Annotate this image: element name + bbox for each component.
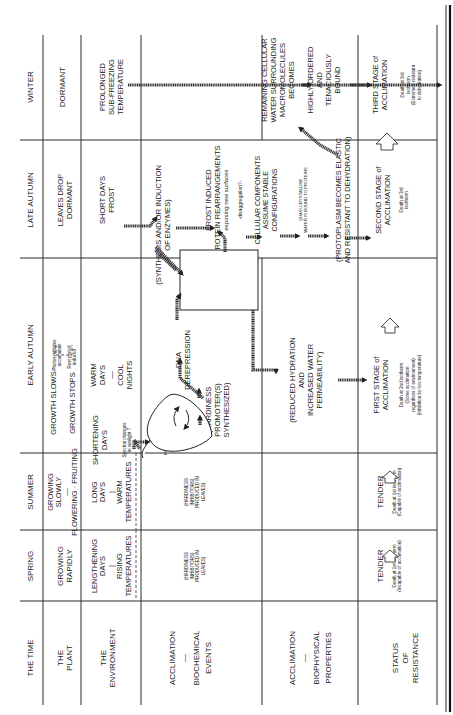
season-late-autumn-line: LATE AUTUMN — [26, 172, 35, 228]
biochem-hardiness-inhibitors-summer: (HARDINESSINHIBITORS)PRODUCED INLEAVES) — [184, 476, 206, 508]
status-third-stage-note-line: to dehydration) — [417, 69, 422, 100]
plant-winter-line: DORMANT — [58, 67, 67, 108]
biochem-frost-rearrangements-line: FROST INDUCED — [204, 169, 213, 231]
biochem-frost-rearrangements: FROST INDUCEDPROTEIN REARRANGEMENTS — [204, 145, 222, 254]
env-warm-days-cool-nights-line: WARM — [89, 363, 98, 386]
biochem-highly-ordered-line: HIGHLY ORDERED — [306, 46, 315, 113]
status-second-stage-note-line: Death at 3rd — [399, 187, 404, 212]
header-biochemical-events-line: BIOCHEMICAL — [192, 630, 201, 686]
header-the-plant-line: PLANT — [65, 645, 74, 671]
biophys-reduced-hydration: (REDUCED HYDRATIONANDINCREASED WATERPERM… — [288, 337, 324, 422]
biochem-exposing-surfaces: exposing new surfaces — [223, 169, 229, 230]
env-spring-line: TEMPERATURES — [124, 535, 133, 596]
biophys-protoplasm-elastic-line: AND RESISTANT TO DEHYDRATION) — [343, 137, 352, 264]
env-prolonged-subfreezing: PROLONGEDSUB-FREEZINGTEMPERATURE — [98, 59, 125, 115]
biochem-remaining-water-line: REMAINING CELLULAR — [260, 38, 269, 122]
biophys-reduced-hydration-line: AND — [297, 372, 306, 388]
plant-spring: GROWINGRAPIDLY — [56, 546, 74, 586]
open-arrow-icon — [381, 318, 399, 333]
status-third-stage-note-line: (Extremely resistant — [411, 64, 416, 105]
status-spring-note-line: Death at 1st isotherm — [392, 544, 397, 587]
header-the-plant-line: THE — [56, 650, 65, 666]
env-short-days-frost: SHORT DAYSFROST — [98, 176, 116, 224]
status-spring-note-line: (Incapable of acclimation) — [397, 540, 402, 592]
env-shortening-days-line: SHORTENING — [91, 415, 100, 465]
status-first-stage-label-line: FIRST STAGE of — [372, 356, 381, 414]
status-second-stage-label-line: ACCLIMATION — [383, 175, 392, 226]
status-spring-label: TENDER — [376, 549, 385, 582]
biochem-hardiness-inhibitors-summer-line: PRODUCED IN — [195, 476, 200, 508]
header-biophysical-properties-line: — — [300, 654, 309, 662]
biochem-hardiness-inhibitors-spring-line: PRODUCED IN — [195, 550, 200, 582]
status-first-stage-note-line: (Inhibition by low temperature) — [417, 354, 422, 415]
env-short-days-frost-line: SHORT DAYS — [98, 176, 107, 224]
biophys-reduced-hydration-line: PERMEABILITY) — [315, 351, 324, 409]
env-prolonged-subfreezing-line: PROLONGED — [98, 62, 107, 111]
header-status-of-resistance-line: RESISTANCE — [411, 633, 420, 684]
header-biochemical-events: ACCLIMATION—BIOCHEMICALEVENTS — [168, 630, 213, 686]
env-warm-days-cool-nights-line: — — [107, 371, 116, 379]
plant-late-autumn-line: DORMANT — [65, 181, 74, 219]
season-winter-line: WINTER — [26, 71, 35, 103]
env-spectral-note-line: in sunlight ? — [127, 428, 132, 453]
plant-growth-stops: GROWTH STOPS — [68, 372, 77, 434]
env-prolonged-subfreezing-line: TEMPERATURE — [116, 59, 125, 115]
status-first-stage-note-line: regardless of environment) — [411, 358, 416, 412]
env-warm-days-cool-nights-line: NIGHTS — [125, 361, 134, 389]
biochem-highly-ordered-line: TENACIOUSLY — [324, 54, 333, 106]
biochem-hardiness-promoters-line: PROMOTER(S) — [213, 383, 222, 437]
biochem-dna-derepression-line: DNA — [174, 352, 183, 368]
env-warm-days-cool-nights: WARMDAYS—COOLNIGHTS — [89, 361, 134, 389]
open-arrow-icon — [376, 133, 398, 150]
biochem-disaggregation-line: -disaggregation?- — [237, 180, 243, 219]
biochem-cellular-components-line: ASSUME STABLE — [262, 171, 269, 229]
status-first-stage-note-line: (Some acclimation — [405, 366, 410, 404]
status-summer-note-line: (Capable of acclimation) — [397, 467, 402, 516]
plant-growth-slows: GROWTH SLOWS — [49, 371, 58, 434]
metabolic-changes-box — [180, 250, 258, 310]
plant-spring-line: GROWING — [56, 546, 65, 586]
header-biophysical-properties-line: ACCLIMATION — [288, 631, 297, 685]
biophys-reduced-hydration-line: INCREASED WATER — [306, 343, 315, 416]
arrow-frost-to-enzymes — [124, 218, 156, 226]
biochem-remaining-water-line: WATER SURROUNDING — [269, 37, 278, 122]
biochem-hardiness-inhibitors-summer-line: (HARDINESS — [184, 478, 189, 506]
season-spring: SPRING — [26, 551, 35, 582]
biochem-quasi-crystalline: QUASI-CRYSTALLINEWATER IS BOUND TO PROTE… — [298, 167, 309, 233]
season-summer: SUMMER — [26, 474, 35, 510]
biochem-exposing-surfaces-line: exposing new surfaces — [223, 169, 229, 230]
status-second-stage-note-line: isotherm — [404, 191, 409, 209]
biochem-enzymes-line: OF ENZYMES) — [163, 199, 172, 251]
biochem-highly-ordered: HIGHLY ORDEREDANDTENACIOUSLYBOUND — [306, 46, 342, 113]
header-status-of-resistance-line: OF — [401, 652, 410, 663]
phytochrome-leaf-icon — [142, 394, 212, 458]
status-second-stage-label: SECOND STAGE ofACCLIMATION — [374, 165, 392, 233]
biochem-enzymes-line: (SYNTHESIS AND/OR INDUCTION — [154, 165, 163, 285]
plant-growth-stops-line: GROWTH STOPS — [68, 372, 77, 434]
biochem-hardiness-inhibitors-spring-line: INHIBITORS) — [190, 552, 195, 580]
env-warm-days-cool-nights-line: COOL — [116, 364, 125, 385]
status-second-stage-note: Death at 3rdisotherm — [399, 187, 410, 212]
header-the-time-line: THE TIME — [26, 639, 35, 676]
plant-late-autumn: LEAVES DROPDORMANT — [56, 174, 74, 226]
plant-rest-period-note-line: induced — [72, 349, 77, 365]
biochem-hardiness-inhibitors-spring: (HARDINESSINHIBITORS)PRODUCED INLEAVES) — [184, 550, 206, 582]
status-first-stage-note-line: Death at 2nd isotherm — [399, 363, 404, 408]
header-the-environment-line: ENVIRONMENT — [108, 628, 117, 687]
acclimation-diagram: THE TIMETHEPLANTTHEENVIRONMENTACCLIMATIO… — [0, 0, 453, 715]
env-spring: LENGTHENINGDAYS|RISINGTEMPERATURES — [90, 535, 133, 596]
header-biophysical-properties-line: PROPERTIES — [324, 632, 333, 683]
biochem-hardiness-promoters-line: SYNTHESIZED) — [222, 382, 231, 438]
status-summer-label-line: TENDER — [376, 475, 385, 508]
env-summer-line: TEMPERATURES — [124, 461, 133, 522]
header-biochemical-events-line: — — [180, 654, 189, 662]
env-shortening-days: SHORTENINGDAYS — [91, 415, 109, 465]
season-late-autumn: LATE AUTUMN — [26, 172, 35, 228]
status-first-stage-note: Death at 2nd isotherm(Some acclimationre… — [399, 354, 422, 415]
biophys-protoplasm-elastic-line: (PROTOPLASM BECOMES ELASTIC — [334, 138, 343, 262]
biochem-enzymes: (SYNTHESIS AND/OR INDUCTIONOF ENZYMES) — [154, 165, 172, 285]
biochem-hardiness-inhibitors-summer-line: INHIBITORS) — [190, 478, 195, 506]
biochem-quasi-crystalline-line: QUASI-CRYSTALLINE — [298, 178, 303, 221]
status-spring-note: Death at 1st isotherm(Incapable of accli… — [392, 540, 403, 592]
plant-spring-line: RAPIDLY — [65, 549, 74, 583]
